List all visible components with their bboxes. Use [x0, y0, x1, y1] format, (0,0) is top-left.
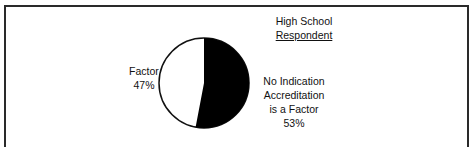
- label-factor-pct: 47%: [124, 78, 164, 92]
- label-no-indication-line-2: Accreditation: [256, 88, 332, 102]
- pie-chart: [0, 0, 471, 147]
- label-factor-name: Factor: [124, 64, 164, 78]
- label-no-indication: No Indication Accreditation is a Factor …: [256, 74, 332, 130]
- label-no-indication-pct: 53%: [256, 116, 332, 130]
- label-factor: Factor 47%: [124, 64, 164, 92]
- label-no-indication-line-1: No Indication: [256, 74, 332, 88]
- label-no-indication-line-3: is a Factor: [256, 102, 332, 116]
